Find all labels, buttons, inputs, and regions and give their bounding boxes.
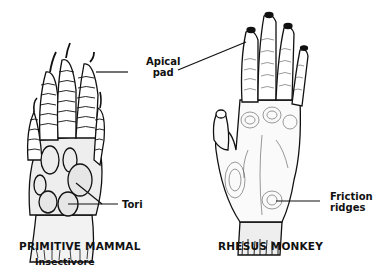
- apical-pad-leader-right: [178, 42, 246, 70]
- friction-ridges-label: Friction ridges: [330, 191, 373, 213]
- rhesus-monkey-caption: RHESUS MONKEY: [218, 240, 323, 252]
- apical-pad-label-line2: pad: [146, 67, 180, 78]
- apical-pad-label-line1: Apical: [146, 56, 180, 67]
- apical-pad-label: Apical pad: [146, 56, 180, 78]
- rhesus-monkey-hand: [214, 13, 309, 256]
- diagram-artwork: [0, 0, 385, 274]
- friction-ridges-label-line2: ridges: [330, 202, 373, 213]
- primitive-mammal-caption: PRIMITIVE MAMMAL: [19, 240, 141, 252]
- primitive-mammal-paw: [28, 43, 105, 262]
- insectivore-subcaption: Insectivore: [35, 256, 95, 267]
- tori-label: Tori: [122, 199, 143, 210]
- friction-ridges-label-line1: Friction: [330, 191, 373, 202]
